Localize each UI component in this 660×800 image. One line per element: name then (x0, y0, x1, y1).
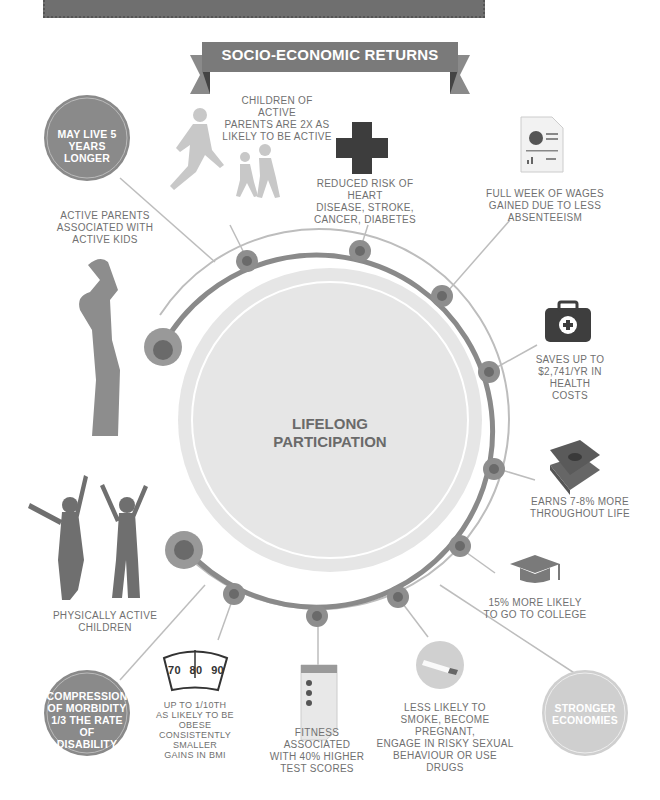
medical-cross-icon (336, 122, 388, 174)
label-reduced-risk: REDUCED RISK OF HEART DISEASE, STROKE, C… (300, 178, 430, 226)
label-fitness: FITNESS ASSOCIATED WITH 40% HIGHER TEST … (262, 727, 372, 775)
label-active-parents: ACTIVE PARENTS ASSOCIATED WITH ACTIVE KI… (50, 210, 160, 246)
label-college: 15% MORE LIKELY TO GO TO COLLEGE (480, 597, 590, 621)
banner-title: SOCIO-ECONOMIC RETURNS (182, 46, 478, 63)
money-stack-icon (550, 440, 600, 495)
report-document-icon (521, 117, 563, 172)
bubble-stronger-economies-text: STRONGER ECONOMIES (542, 702, 628, 726)
scale-ticks: 70 80 90 (168, 664, 224, 676)
bubble-compression-text: COMPRESSION OF MORBIDITY 1/3 THE RATE OF… (44, 690, 130, 750)
label-children-active: CHILDREN OF ACTIVE PARENTS ARE 2X AS LIK… (222, 95, 332, 143)
label-saves: SAVES UP TO $2,741/YR IN HEALTH COSTS (525, 354, 615, 402)
label-physically-active: PHYSICALLY ACTIVE CHILDREN (50, 610, 160, 634)
bubble-live-longer-text: MAY LIVE 5 YEARS LONGER (44, 128, 130, 164)
label-earns: EARNS 7-8% MORE THROUGHOUT LIFE (520, 496, 640, 520)
first-aid-kit-icon (545, 302, 591, 342)
children-icon (28, 475, 148, 600)
center-title: LIFELONG PARTICIPATION (250, 415, 410, 451)
parent-child-icon (79, 259, 120, 436)
label-less-likely: LESS LIKELY TO SMOKE, BECOME PREGNANT, E… (375, 702, 515, 774)
cigarette-icon (416, 641, 464, 689)
label-obese: UP TO 1/10TH AS LIKELY TO BE OBESE CONSI… (140, 700, 250, 760)
label-full-week: FULL WEEK OF WAGES GAINED DUE TO LESS AB… (485, 188, 605, 224)
graduation-cap-icon (510, 555, 560, 583)
